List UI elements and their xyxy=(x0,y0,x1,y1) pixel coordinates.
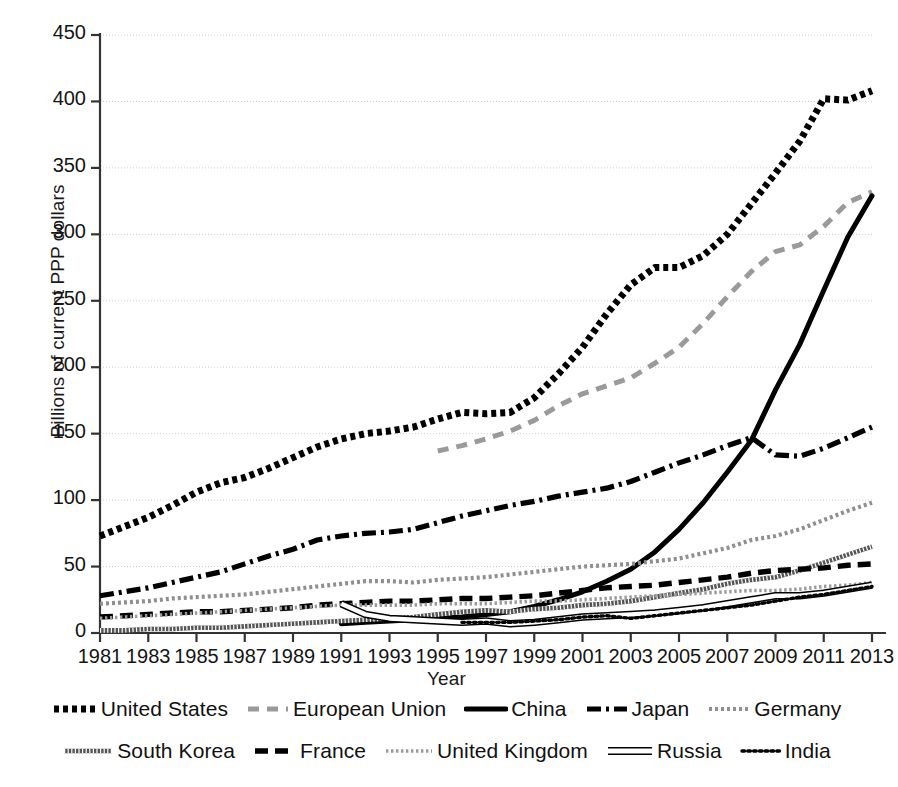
series-line-germany xyxy=(100,503,872,604)
korea-swatch xyxy=(62,743,114,759)
legend-swatch-svg xyxy=(62,743,114,759)
legend-item-japan[interactable]: Japan xyxy=(585,697,690,721)
germany-swatch xyxy=(707,701,751,717)
legend-row: United StatesEuropean UnionChinaJapanGer… xyxy=(0,688,893,730)
legend-swatch-svg xyxy=(606,743,654,759)
y-tick-label: 400 xyxy=(12,87,86,110)
legend-label: India xyxy=(785,739,831,763)
x-axis-title: Year xyxy=(0,668,893,690)
russia-swatch xyxy=(606,743,654,759)
legend-swatch-svg xyxy=(585,701,629,717)
japan-swatch xyxy=(585,701,629,717)
legend-swatch-svg xyxy=(740,743,782,759)
axes xyxy=(91,33,886,642)
series-line-china xyxy=(341,196,872,624)
legend-item-india[interactable]: India xyxy=(740,739,831,763)
legend-swatch-svg xyxy=(384,743,434,759)
legend-item-united-kingdom[interactable]: United Kingdom xyxy=(384,739,588,763)
y-tick-label: 0 xyxy=(12,619,86,642)
data-series-group xyxy=(100,91,872,631)
legend-item-south-korea[interactable]: South Korea xyxy=(62,739,235,763)
x-tick-label: 2013 xyxy=(842,645,898,668)
legend-item-france[interactable]: France xyxy=(253,739,366,763)
legend-item-china[interactable]: China xyxy=(464,697,566,721)
eu-swatch xyxy=(246,701,290,717)
legend-item-russia[interactable]: Russia xyxy=(606,739,722,763)
legend-swatch-svg xyxy=(52,701,98,717)
series-line-japan xyxy=(100,427,872,596)
legend-label: European Union xyxy=(293,697,446,721)
y-tick-label: 350 xyxy=(12,154,86,177)
legend-label: United Kingdom xyxy=(437,739,588,763)
y-tick-label: 150 xyxy=(12,420,86,443)
legend-label: France xyxy=(300,739,366,763)
legend-swatch-svg xyxy=(464,701,508,717)
chart-plot-area xyxy=(0,0,893,700)
y-tick-label: 300 xyxy=(12,220,86,243)
chart-legend: United StatesEuropean UnionChinaJapanGer… xyxy=(0,688,893,772)
y-tick-label: 200 xyxy=(12,353,86,376)
india-swatch xyxy=(740,743,782,759)
legend-label: Russia xyxy=(657,739,722,763)
france-swatch xyxy=(253,743,297,759)
uk-swatch xyxy=(384,743,434,759)
legend-label: China xyxy=(511,697,566,721)
legend-swatch-svg xyxy=(246,701,290,717)
y-tick-label: 100 xyxy=(12,486,86,509)
y-tick-label: 250 xyxy=(12,287,86,310)
us-swatch xyxy=(52,701,98,717)
series-line-united-states xyxy=(100,91,872,536)
china-swatch xyxy=(464,701,508,717)
legend-label: South Korea xyxy=(117,739,235,763)
legend-item-united-states[interactable]: United States xyxy=(52,697,228,721)
line-chart-svg xyxy=(0,0,893,700)
y-tick-label: 50 xyxy=(12,553,86,576)
legend-label: United States xyxy=(101,697,228,721)
y-tick-label: 450 xyxy=(12,21,86,44)
legend-item-european-union[interactable]: European Union xyxy=(246,697,446,721)
legend-row: South KoreaFranceUnited KingdomRussiaInd… xyxy=(0,730,893,772)
legend-label: Japan xyxy=(632,697,690,721)
legend-swatch-svg xyxy=(253,743,297,759)
legend-item-germany[interactable]: Germany xyxy=(707,697,841,721)
legend-swatch-svg xyxy=(707,701,751,717)
legend-label: Germany xyxy=(754,697,841,721)
